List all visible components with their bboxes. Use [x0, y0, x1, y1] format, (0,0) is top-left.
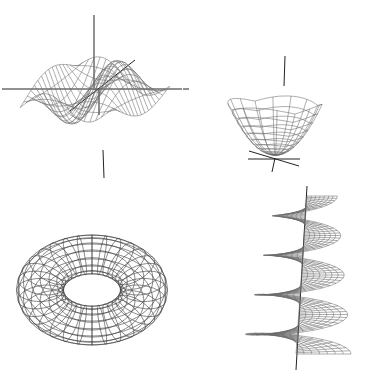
- panel-wave-surface: [0, 0, 183, 186]
- helicoid-plot: [183, 186, 366, 373]
- paraboloid-plot: [183, 0, 366, 186]
- panel-helicoid: [183, 186, 366, 373]
- panel-paraboloid: [183, 0, 366, 186]
- wave-surface-plot: [0, 0, 183, 186]
- panel-torus: [0, 186, 183, 373]
- torus-plot: [0, 186, 183, 373]
